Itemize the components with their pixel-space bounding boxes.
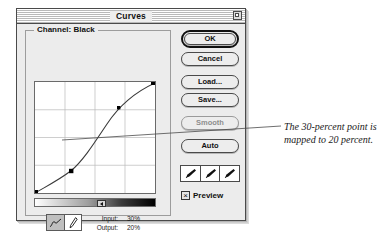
gray-point-eyedropper-icon[interactable] [200,166,219,181]
curve-tool-group[interactable] [46,214,82,231]
ramp-direction-marker-icon[interactable] [97,200,106,207]
control-point-highlight[interactable] [151,82,155,85]
channel-group-box: Channel: Black [25,30,171,216]
dialog-body: Channel: Black [17,24,245,220]
output-value: 20% [118,223,140,232]
window-title: Curves [110,11,152,22]
black-point-eyedropper-icon[interactable] [181,166,200,181]
curve-graph-svg [35,82,155,193]
ok-default-ring: OK [181,30,239,48]
window-title-bar[interactable]: Curves [17,9,245,24]
input-gradient-ramp[interactable] [34,198,156,207]
white-point-eyedropper-icon[interactable] [219,166,238,181]
curve-graph[interactable] [34,81,156,194]
auto-button[interactable]: Auto [181,139,239,153]
checkbox-check-icon: × [182,191,189,200]
control-point-selected[interactable] [69,169,73,173]
zoom-box-icon[interactable] [233,11,242,20]
curve-tool-icon[interactable] [47,215,64,230]
smooth-button[interactable]: Smooth [181,116,239,130]
curves-dialog-window: Curves Channel: Black [16,8,246,221]
output-row: Output: 20% [94,223,140,232]
input-label: Input: [94,214,118,223]
button-spacer [180,157,240,165]
save-button[interactable]: Save... [181,93,239,107]
input-row: Input: 30% [94,214,140,223]
button-column: OK Cancel Load... Save... Smooth Auto [180,30,240,200]
control-point-midtone[interactable] [117,106,120,109]
cancel-button[interactable]: Cancel [181,52,239,66]
pencil-tool-icon[interactable] [64,215,81,230]
ok-button[interactable]: OK [184,33,236,45]
value-readout: Input: 30% Output: 20% [94,214,140,232]
preview-label: Preview [193,191,223,200]
curve-grid [35,82,155,193]
load-button[interactable]: Load... [181,75,239,89]
channel-label: Channel: Black [34,25,98,34]
control-point-shadow[interactable] [35,190,38,193]
output-label: Output: [94,223,118,232]
eyedropper-group [180,165,240,182]
annotation-text: The 30-percent point is mapped to 20 per… [284,120,388,146]
preview-checkbox-row[interactable]: × Preview [181,191,240,200]
preview-checkbox[interactable]: × [181,191,190,200]
input-value: 30% [118,214,140,223]
